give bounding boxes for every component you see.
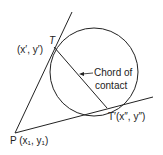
label-chord-line1: Chord of <box>94 67 132 78</box>
label-chord-line2: contact <box>95 80 127 91</box>
arrow-head-icon <box>79 72 84 76</box>
label-point-T: T <box>49 35 55 46</box>
label-point-T-coords: (x′, y′) <box>17 44 43 55</box>
tangent-line-PT <box>15 12 72 133</box>
chord-of-contact-diagram <box>0 0 163 155</box>
label-point-P: P (x₁, y₁) <box>10 135 48 146</box>
label-point-T-prime: T′(x″, y″) <box>108 111 145 122</box>
